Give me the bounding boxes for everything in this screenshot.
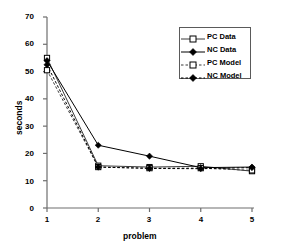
y-tick-label-20: 20	[18, 149, 34, 158]
y-tick-label-50: 50	[18, 67, 34, 76]
legend-swatch-nc-model	[180, 70, 206, 82]
x-tick-label-1: 1	[40, 215, 54, 224]
y-axis-title: seconds	[14, 101, 24, 136]
legend-label-pc-model: PC Model	[207, 58, 241, 67]
legend-swatch-pc-data	[180, 31, 206, 43]
legend-swatch-pc-model	[180, 57, 206, 69]
legend-swatch-nc-data	[180, 44, 206, 56]
marker-filled-diamond	[146, 153, 152, 159]
x-tick-label-2: 2	[91, 215, 105, 224]
legend-item-pc-data[interactable]: PC Data	[180, 30, 252, 43]
marker-open-square	[44, 68, 49, 73]
y-tick-label-10: 10	[18, 177, 34, 186]
x-tick-label-3: 3	[142, 215, 156, 224]
y-tick-label-70: 70	[18, 12, 34, 21]
legend-item-nc-data[interactable]: NC Data	[180, 43, 252, 56]
legend-label-nc-model: NC Model	[207, 71, 242, 80]
legend-label-pc-data: PC Data	[207, 32, 236, 41]
legend-item-pc-model[interactable]: PC Model	[180, 56, 252, 69]
legend-label-nc-data: NC Data	[207, 45, 236, 54]
y-tick-label-60: 60	[18, 39, 34, 48]
y-tick-label-0: 0	[18, 204, 34, 213]
legend-item-nc-model[interactable]: NC Model	[180, 69, 252, 82]
x-tick-label-4: 4	[194, 215, 208, 224]
legend: PC Data NC Data PC Model	[179, 27, 251, 79]
x-tick-label-5: 5	[245, 215, 259, 224]
line-chart: 70 60 50 40 30 20 10 0 1 2 3 4 5 seconds…	[0, 0, 282, 251]
x-axis-title: problem	[123, 231, 157, 241]
marker-filled-diamond	[95, 142, 101, 148]
